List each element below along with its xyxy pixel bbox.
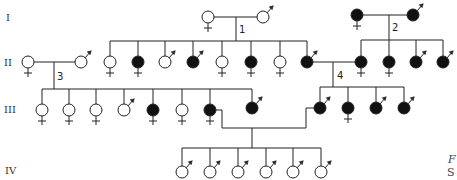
generation-labels: I II III IV bbox=[4, 12, 17, 176]
unaffected-female-individual bbox=[22, 56, 34, 77]
venus-cross-icon bbox=[38, 116, 46, 125]
union-label-2: 2 bbox=[392, 22, 398, 33]
unaffected-female-individual bbox=[104, 56, 116, 77]
unaffected-male-individual bbox=[204, 161, 220, 178]
generation-label-ii: II bbox=[4, 57, 12, 68]
affected-male-individual bbox=[314, 97, 330, 114]
filled-circle-icon bbox=[246, 102, 258, 114]
unaffected-male-individual bbox=[159, 51, 175, 68]
relationship-lines bbox=[34, 15, 443, 166]
pedigree-chart: I II III IV bbox=[0, 0, 457, 180]
union-label-3: 3 bbox=[57, 71, 63, 82]
marriage-line-5 bbox=[216, 108, 314, 128]
venus-cross-icon bbox=[385, 68, 393, 77]
venus-cross-icon bbox=[276, 68, 284, 77]
filled-circle-icon bbox=[342, 102, 354, 114]
unaffected-male-individual bbox=[176, 161, 192, 178]
venus-cross-icon bbox=[344, 114, 352, 123]
union-label-4: 4 bbox=[337, 70, 343, 81]
unaffected-female-individual bbox=[176, 104, 188, 125]
venus-cross-icon bbox=[149, 116, 157, 125]
open-circle-icon bbox=[104, 56, 116, 68]
affected-male-individual bbox=[407, 4, 423, 21]
filled-circle-icon bbox=[132, 56, 144, 68]
affected-female-individual bbox=[204, 104, 216, 125]
caption: F S bbox=[447, 153, 456, 179]
unaffected-female-individual bbox=[216, 56, 228, 77]
venus-cross-icon bbox=[206, 116, 214, 125]
affected-male-individual bbox=[187, 51, 203, 68]
open-circle-icon bbox=[36, 104, 48, 116]
venus-cross-icon bbox=[24, 68, 32, 77]
generation-label-iii: III bbox=[4, 104, 16, 115]
open-circle-icon bbox=[63, 104, 75, 116]
unaffected-female-individual bbox=[90, 104, 102, 125]
affected-male-individual bbox=[301, 51, 317, 68]
open-circle-icon bbox=[274, 56, 286, 68]
affected-female-individual bbox=[147, 104, 159, 125]
affected-male-individual bbox=[398, 97, 414, 114]
unaffected-male-individual bbox=[232, 161, 248, 178]
venus-cross-icon bbox=[353, 21, 361, 30]
generation-label-i: I bbox=[6, 12, 10, 23]
venus-cross-icon bbox=[178, 116, 186, 125]
unaffected-male-individual bbox=[257, 6, 273, 23]
unaffected-male-individual bbox=[315, 161, 331, 178]
venus-cross-icon bbox=[92, 116, 100, 125]
unaffected-male-individual bbox=[260, 161, 276, 178]
generation-label-iv: IV bbox=[5, 165, 17, 176]
affected-female-individual bbox=[342, 102, 354, 123]
union-label-1: 1 bbox=[239, 24, 245, 35]
filled-circle-icon bbox=[355, 56, 367, 68]
filled-circle-icon bbox=[147, 104, 159, 116]
open-circle-icon bbox=[176, 104, 188, 116]
affected-male-individual bbox=[410, 51, 426, 68]
venus-cross-icon bbox=[218, 68, 226, 77]
unaffected-male-individual bbox=[75, 51, 91, 68]
venus-cross-icon bbox=[106, 68, 114, 77]
open-circle-icon bbox=[216, 56, 228, 68]
filled-circle-icon bbox=[204, 104, 216, 116]
unaffected-female-individual bbox=[274, 56, 286, 77]
filled-circle-icon bbox=[351, 9, 363, 21]
caption-line-1: F bbox=[447, 153, 456, 166]
affected-male-individual bbox=[370, 97, 386, 114]
unaffected-female-individual bbox=[63, 104, 75, 125]
affected-female-individual bbox=[383, 56, 395, 77]
venus-cross-icon bbox=[247, 68, 255, 77]
venus-cross-icon bbox=[134, 68, 142, 77]
affected-male-individual bbox=[246, 97, 262, 114]
affected-female-individual bbox=[351, 9, 363, 30]
venus-cross-icon bbox=[204, 23, 212, 32]
affected-female-individual bbox=[245, 56, 257, 77]
venus-cross-icon bbox=[65, 116, 73, 125]
venus-cross-icon bbox=[357, 68, 365, 77]
unaffected-female-individual bbox=[202, 11, 214, 32]
open-circle-icon bbox=[90, 104, 102, 116]
affected-female-individual bbox=[355, 56, 367, 77]
affected-male-individual bbox=[437, 51, 453, 68]
filled-circle-icon bbox=[383, 56, 395, 68]
filled-circle-icon bbox=[245, 56, 257, 68]
affected-female-individual bbox=[132, 56, 144, 77]
unaffected-male-individual bbox=[118, 99, 134, 116]
unaffected-male-individual bbox=[287, 161, 303, 178]
open-circle-icon bbox=[22, 56, 34, 68]
open-circle-icon bbox=[202, 11, 214, 23]
caption-line-2: S bbox=[447, 166, 455, 179]
unaffected-female-individual bbox=[36, 104, 48, 125]
